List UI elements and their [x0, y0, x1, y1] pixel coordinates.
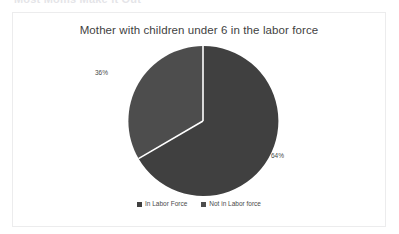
cut-off-heading: Most Moms Make it Out	[14, 0, 314, 5]
legend-item-in-labor-force[interactable]: In Labor Force	[137, 201, 187, 208]
pie-label-not-in-labor-force: 36%	[95, 69, 108, 76]
pie-chart-svg	[13, 13, 387, 228]
chart-card: Mother with children under 6 in the labo…	[12, 12, 386, 227]
legend-swatch-icon	[201, 202, 206, 207]
pie-chart: 36% 64%	[13, 13, 385, 226]
legend-item-not-in-labor-force[interactable]: Not in Labor force	[201, 201, 261, 208]
pie-label-in-labor-force: 64%	[271, 152, 284, 159]
legend-swatch-icon	[137, 202, 142, 207]
chart-legend: In Labor Force Not in Labor force	[13, 201, 385, 208]
legend-label: In Labor Force	[145, 201, 187, 208]
legend-label: Not in Labor force	[209, 201, 261, 208]
